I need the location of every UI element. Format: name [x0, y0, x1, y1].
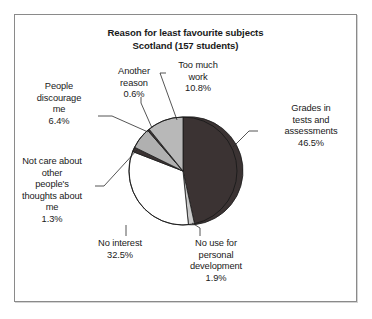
- pie-label-too-much-work: Too much work 10.8%: [160, 60, 236, 95]
- pie-label-another-reason: Another reason 0.6%: [105, 66, 163, 101]
- pie-label-no-interest: No interest 32.5%: [82, 238, 158, 261]
- chart-title: Reason for least favourite subjects Scot…: [15, 27, 356, 52]
- pie-label-no-use-for-personal-development: No use for personal development 1.9%: [176, 238, 256, 284]
- pie-label-grades-in-tests-and-assessments: Grades in tests and assessments 46.5%: [262, 103, 360, 149]
- pie-label-people-discourage-me: People discourage me 6.4%: [22, 81, 96, 127]
- pie-label-not-care-about-other-peoples-thoughts-about-me: Not care about other people's thoughts a…: [8, 156, 96, 226]
